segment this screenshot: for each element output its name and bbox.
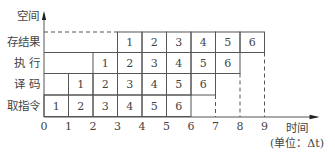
x-tick-label: 4 (139, 120, 146, 133)
cell-instruction-number: 1 (77, 78, 84, 91)
x-tick-label: 2 (90, 120, 97, 133)
x-tick-label: 7 (212, 120, 219, 133)
labels: 存结果执 行译 码取指令0123456789空间时间(单位：Δt) (7, 9, 324, 150)
cell-instruction-number: 4 (151, 78, 158, 91)
cell-instruction-number: 4 (126, 100, 133, 113)
stage-label: 存结果 (7, 35, 41, 49)
pipeline-diagram: 123456123456123456123456 存结果执 行译 码取指令012… (0, 0, 335, 154)
cell-instruction-number: 2 (102, 78, 109, 91)
cell-instruction-number: 2 (77, 100, 84, 113)
pipeline-grid: 123456123456123456123456 (44, 32, 265, 117)
cell-instruction-number: 4 (175, 57, 182, 70)
cell-instruction-number: 6 (200, 78, 207, 91)
x-tick-label: 8 (237, 120, 244, 133)
cell-instruction-number: 6 (175, 100, 182, 113)
cell-instruction-number: 6 (249, 36, 256, 49)
x-tick-label: 1 (65, 120, 72, 133)
stage-label: 取指令 (7, 99, 41, 113)
cell-instruction-number: 1 (126, 36, 133, 49)
y-axis-label: 空间 (17, 9, 39, 23)
cell-instruction-number: 3 (151, 57, 158, 70)
x-axis-label: 时间 (286, 121, 308, 135)
cell-instruction-number: 4 (200, 36, 207, 49)
cell-instruction-number: 1 (53, 100, 60, 113)
x-axis-unit: (单位：Δt) (270, 136, 324, 150)
x-tick-label: 3 (114, 120, 121, 133)
cell-instruction-number: 3 (175, 36, 182, 49)
cell-instruction-number: 2 (151, 36, 158, 49)
stage-label: 译 码 (14, 77, 40, 91)
cell-instruction-number: 5 (175, 78, 182, 91)
x-tick-label: 0 (41, 120, 48, 133)
cell-instruction-number: 5 (151, 100, 158, 113)
cell-instruction-number: 2 (126, 57, 133, 70)
cell-instruction-number: 1 (102, 57, 109, 70)
cell-instruction-number: 3 (102, 100, 109, 113)
y-axis-arrow-icon (42, 11, 46, 20)
x-axis-arrow-icon (310, 115, 320, 119)
stage-label: 执 行 (14, 56, 40, 70)
x-tick-label: 5 (163, 120, 170, 133)
cell-instruction-number: 3 (126, 78, 133, 91)
cell-instruction-number: 5 (200, 57, 207, 70)
cell-instruction-number: 5 (224, 36, 231, 49)
cell-instruction-number: 6 (224, 57, 231, 70)
x-tick-label: 6 (188, 120, 195, 133)
x-tick-label: 9 (261, 120, 268, 133)
